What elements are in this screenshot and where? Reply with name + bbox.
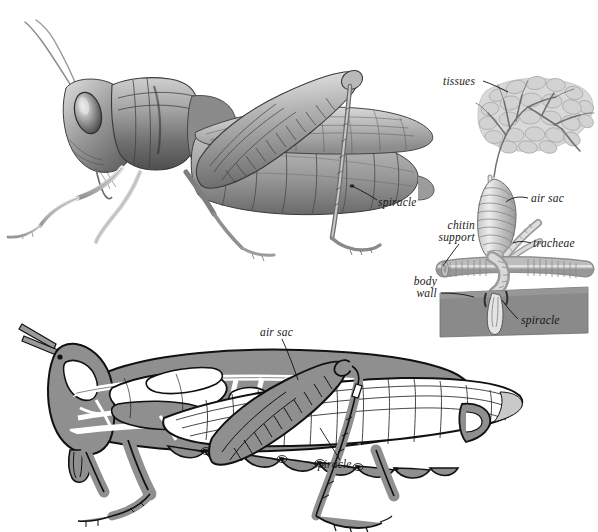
label-chitin-support-line1: chitin (411, 219, 475, 232)
spiracle-marker-top (349, 184, 354, 188)
label-body-wall-line1: body (385, 275, 437, 288)
panel-tracheal-schematic (0, 300, 598, 532)
label-tissues: tissues (443, 75, 475, 88)
chitin-support (442, 262, 449, 277)
label-spiracle-box: spiracle (521, 314, 560, 327)
label-spiracle-bottom: spiracle (313, 458, 352, 471)
label-tracheae: tracheae (533, 237, 575, 250)
figure-canvas: spiracle tissues air sac chitin support … (0, 0, 598, 532)
label-air-sac-bottom: air sac (260, 326, 293, 339)
tissue-mass (476, 75, 596, 177)
label-spiracle-top: spiracle (378, 196, 417, 209)
label-body-wall-line2: wall (385, 287, 437, 300)
panel-tracheal-detail (430, 55, 598, 330)
label-chitin-support-line2: support (411, 231, 475, 244)
antenna-group-schematic (19, 324, 58, 355)
panel-grasshopper-drawing (0, 0, 440, 300)
label-air-sac-right: air sac (531, 192, 564, 205)
